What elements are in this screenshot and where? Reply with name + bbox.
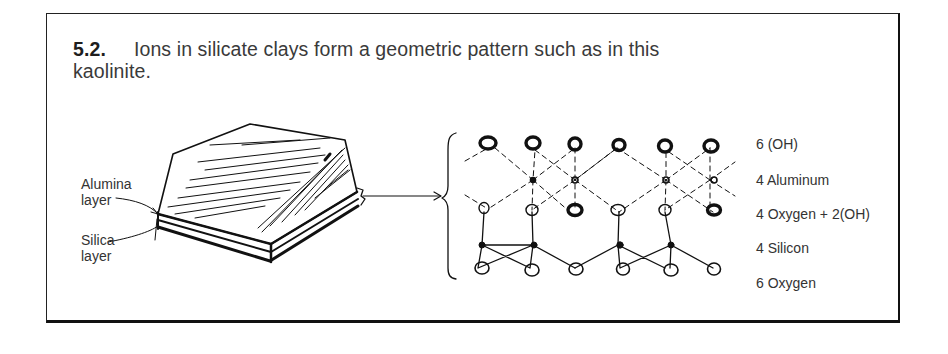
brace-icon [442, 133, 456, 279]
alumina-layer-label: Alumina layer [81, 176, 132, 208]
octahedral-bonds [465, 148, 735, 212]
legend-aluminum: 4 Aluminum [756, 172, 829, 188]
aluminum-row [531, 177, 718, 183]
crystal-sketch-icon [158, 124, 441, 262]
tetrahedral-bonds [478, 212, 713, 268]
legend-oxygen: 6 Oxygen [756, 275, 816, 291]
legend-oxygen-hydroxyl: 4 Oxygen + 2(OH) [756, 206, 870, 222]
legend-silicon: 4 Silicon [756, 240, 809, 256]
oxygen-bottom-row [475, 262, 721, 276]
hydroxyl-top-row [480, 137, 718, 152]
legend-hydroxyl: 6 (OH) [756, 136, 798, 152]
silica-layer-label: Silica layer [81, 232, 114, 264]
oxygen-hydroxyl-row [479, 203, 721, 216]
